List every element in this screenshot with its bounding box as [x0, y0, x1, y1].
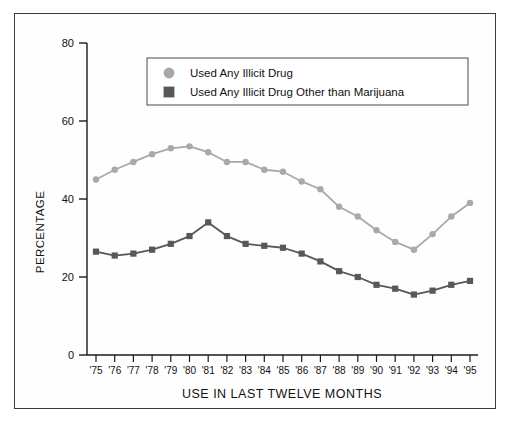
legend-item-label: Used Any Illicit Drug Other than Marijua…: [190, 86, 405, 98]
y-axis-tick-label: 80: [62, 37, 74, 49]
chart-figure: 020406080 '75'76'77'78'79'80'81'82'83'84…: [0, 0, 510, 424]
data-point-marker: [317, 258, 323, 264]
data-point-marker: [186, 143, 192, 149]
data-point-marker: [205, 149, 211, 155]
x-axis-tick-label: '93: [426, 365, 439, 376]
y-axis-tick-label: 40: [62, 193, 74, 205]
data-point-marker: [280, 245, 286, 251]
data-point-marker: [224, 159, 230, 165]
data-point-marker: [430, 288, 436, 294]
series-other-than-marijuana: [93, 219, 473, 297]
x-axis-tick-label: '79: [164, 365, 177, 376]
data-point-marker: [411, 291, 417, 297]
data-point-marker: [243, 241, 249, 247]
x-axis-tick-label: '95: [463, 365, 476, 376]
data-point-marker: [112, 252, 118, 258]
data-point-marker: [93, 176, 99, 182]
data-point-marker: [317, 186, 323, 192]
data-point-marker: [448, 213, 454, 219]
x-axis-tick-label: '88: [333, 365, 346, 376]
legend-marker-square-icon: [164, 87, 175, 98]
x-axis: '75'76'77'78'79'80'81'82'83'84'85'86'87'…: [87, 355, 478, 376]
data-point-marker: [261, 167, 267, 173]
data-point-marker: [336, 204, 342, 210]
x-axis-tick-label: '84: [258, 365, 271, 376]
legend-marker-circle-icon: [164, 68, 175, 79]
x-axis-tick-label: '77: [127, 365, 140, 376]
y-axis-title: PERCENTAGE: [34, 191, 46, 273]
series-line: [96, 222, 470, 294]
data-point-marker: [336, 268, 342, 274]
data-point-marker: [261, 243, 267, 249]
data-point-marker: [392, 286, 398, 292]
data-point-marker: [467, 200, 473, 206]
data-point-marker: [411, 247, 417, 253]
data-point-marker: [224, 233, 230, 239]
data-point-marker: [242, 159, 248, 165]
x-axis-tick-label: '90: [370, 365, 383, 376]
x-axis-tick-label: '86: [295, 365, 308, 376]
x-axis-tick-label: '92: [407, 365, 420, 376]
data-point-marker: [130, 159, 136, 165]
y-axis-tick-label: 0: [68, 349, 74, 361]
data-point-marker: [373, 227, 379, 233]
data-series-group: [93, 143, 473, 298]
data-point-marker: [373, 282, 379, 288]
x-axis-tick-label: '91: [389, 365, 402, 376]
chart-legend: Used Any Illicit DrugUsed Any Illicit Dr…: [147, 58, 468, 105]
x-axis-tick-label: '87: [314, 365, 327, 376]
y-axis-tick-label: 20: [62, 271, 74, 283]
x-axis-tick-label: '75: [89, 365, 102, 376]
data-point-marker: [149, 151, 155, 157]
data-point-marker: [186, 233, 192, 239]
data-point-marker: [93, 249, 99, 255]
data-point-marker: [130, 251, 136, 257]
x-axis-tick-label: '82: [220, 365, 233, 376]
data-point-marker: [429, 231, 435, 237]
data-point-marker: [299, 251, 305, 257]
data-point-marker: [467, 278, 473, 284]
x-axis-title: USE IN LAST TWELVE MONTHS: [182, 387, 382, 401]
y-axis-tick-label: 60: [62, 115, 74, 127]
x-axis-tick-label: '83: [239, 365, 252, 376]
x-axis-tick-label: '80: [183, 365, 196, 376]
data-point-marker: [168, 241, 174, 247]
x-axis-tick-label: '78: [146, 365, 159, 376]
x-axis-tick-label: '94: [445, 365, 458, 376]
series-line: [96, 146, 470, 249]
data-point-marker: [448, 282, 454, 288]
data-point-marker: [392, 239, 398, 245]
data-point-marker: [355, 213, 361, 219]
series-any-illicit-drug: [93, 143, 473, 253]
data-point-marker: [112, 167, 118, 173]
data-point-marker: [168, 145, 174, 151]
line-chart-plot: 020406080 '75'76'77'78'79'80'81'82'83'84…: [0, 0, 510, 424]
data-point-marker: [299, 178, 305, 184]
x-axis-tick-label: '89: [351, 365, 364, 376]
y-axis: 020406080: [62, 37, 87, 361]
data-point-marker: [280, 169, 286, 175]
x-axis-tick-label: '81: [202, 365, 215, 376]
data-point-marker: [355, 274, 361, 280]
data-point-marker: [205, 219, 211, 225]
x-axis-tick-label: '76: [108, 365, 121, 376]
x-axis-tick-label: '85: [276, 365, 289, 376]
data-point-marker: [149, 247, 155, 253]
legend-item-label: Used Any Illicit Drug: [190, 67, 293, 79]
